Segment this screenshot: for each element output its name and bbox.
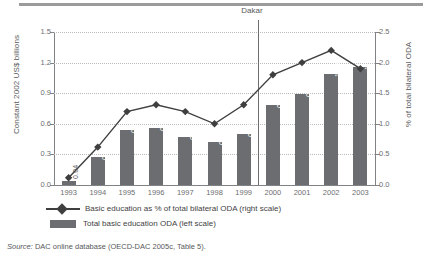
right-axis-tick: [376, 93, 380, 94]
bar-value-label: 0.27: [101, 146, 108, 160]
x-axis-tick-labels: 1993199419951996199719981999200020012002…: [54, 188, 375, 202]
x-axis-tick-label: 1995: [112, 188, 141, 198]
right-axis-title: % of total bilateral ODA: [404, 25, 413, 145]
source-note: Source: DAC online database (OECD-DAC 20…: [7, 242, 206, 251]
right-axis-tick-labels: 0.00.51.01.52.02.5: [376, 32, 402, 186]
bar-value-label: 0.78: [276, 94, 283, 108]
bar-value-label: 0.47: [189, 126, 196, 140]
right-axis-tick-label: 2.5: [379, 28, 389, 36]
x-axis-tick-label: 1998: [200, 188, 229, 198]
bar: [91, 157, 105, 185]
bar-value-label: 0.54: [130, 118, 137, 132]
bar: [62, 181, 76, 185]
bar: [237, 134, 251, 185]
bar: [266, 105, 280, 185]
bar: [324, 74, 338, 185]
source-citation: DAC online database (OECD-DAC 2005c, Tab…: [33, 242, 206, 251]
x-axis-tick-label: 2003: [346, 188, 375, 198]
right-axis-tick: [376, 154, 380, 155]
bar: [120, 130, 134, 185]
bar-value-label: 0.50: [247, 123, 254, 137]
left-axis-tick: [50, 63, 54, 64]
bar: [295, 94, 309, 185]
right-axis-tick-label: 0.5: [379, 150, 389, 158]
gridline: [54, 63, 375, 64]
left-axis-tick: [50, 124, 54, 125]
x-axis-tick-label: 2001: [287, 188, 316, 198]
dakar-annotation-label: Dakar: [241, 6, 262, 15]
x-axis-tick-label: 1994: [83, 188, 112, 198]
legend-item-label: Total basic education ODA (left scale): [83, 219, 216, 228]
dakar-marker-line: [258, 20, 259, 185]
x-axis-tick-label: 2000: [258, 188, 287, 198]
bar-value-label: 1.16: [364, 55, 371, 69]
gridline: [54, 32, 375, 33]
x-axis-tick-label: 1997: [171, 188, 200, 198]
legend-line-marker-icon: [46, 203, 80, 214]
left-axis-tick: [50, 154, 54, 155]
bar: [178, 137, 192, 185]
left-axis-tick: [50, 32, 54, 33]
left-axis-title: Constant 2002 US$ billions: [12, 25, 21, 145]
x-axis-tick-label: 1996: [142, 188, 171, 198]
right-axis-tick-label: 0.0: [379, 181, 389, 189]
bar: [208, 142, 222, 185]
x-axis-line: [54, 185, 376, 186]
right-axis-tick: [376, 32, 380, 33]
left-axis-tick: [50, 93, 54, 94]
bar-value-label: 0.56: [159, 116, 166, 130]
left-axis-tick-labels: 0.00.30.60.91.21.5: [27, 32, 53, 186]
legend-item: Basic education as % of total bilateral …: [46, 201, 376, 216]
chart-legend: Basic education as % of total bilateral …: [46, 201, 376, 231]
legend-diamond-icon: [56, 203, 67, 214]
x-axis-tick-label: 2002: [317, 188, 346, 198]
right-axis-tick-label: 2.0: [379, 59, 389, 67]
bar-value-label: 0.42: [218, 131, 225, 145]
figure-container: 0.040.270.540.560.470.420.500.780.891.09…: [0, 0, 429, 256]
bar-value-label: 0.89: [305, 83, 312, 97]
plot-area: 0.040.270.540.560.470.420.500.780.891.09…: [54, 32, 375, 185]
bar: [149, 128, 163, 185]
right-axis-tick-label: 1.5: [379, 89, 389, 97]
right-axis-tick: [376, 124, 380, 125]
left-axis-tick: [50, 185, 54, 186]
right-axis-tick: [376, 185, 380, 186]
legend-item-label: Basic education as % of total bilateral …: [85, 204, 281, 213]
source-label: Source:: [7, 242, 33, 251]
legend-bar-swatch-icon: [50, 220, 76, 228]
bar-value-label: 0.04: [72, 164, 79, 178]
right-axis-tick: [376, 63, 380, 64]
top-divider-rule: [19, 3, 423, 6]
bar: [353, 67, 367, 185]
x-axis-tick-label: 1999: [229, 188, 258, 198]
x-axis-tick-label: 1993: [54, 188, 83, 198]
legend-item: Total basic education ODA (left scale): [46, 216, 376, 231]
right-axis-tick-label: 1.0: [379, 120, 389, 128]
bar-value-label: 1.09: [334, 62, 341, 76]
